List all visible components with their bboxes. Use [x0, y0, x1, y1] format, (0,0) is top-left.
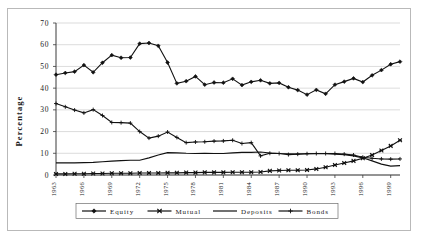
chart-outer-frame: Percentage 010203040506070 1963196619691…	[7, 8, 411, 231]
marker-diamond	[147, 41, 151, 45]
series-mutual	[54, 138, 402, 175]
x-tick-label: 1996	[357, 182, 364, 197]
marker-diamond	[287, 85, 291, 89]
chart-legend: EquityMutualDepositsBonds	[76, 204, 338, 219]
legend-item-deposits[interactable]: Deposits	[213, 208, 273, 216]
y-tick-label: 10	[40, 149, 49, 158]
y-axis-title-group: Percentage	[14, 96, 24, 147]
marker-diamond	[184, 79, 188, 83]
x-tick-label: 1966	[78, 182, 85, 197]
y-gridlines	[56, 23, 400, 175]
axis-lines	[56, 23, 400, 175]
x-tick-label: 1984	[245, 182, 252, 197]
x-tick-label: 1981	[217, 182, 224, 196]
y-tick-label: 70	[40, 19, 49, 28]
x-tick-label: 1963	[50, 182, 57, 196]
marker-diamond	[119, 56, 123, 60]
legend-item-equity[interactable]: Equity	[82, 208, 134, 216]
marker-diamond	[277, 81, 281, 85]
y-tick-label: 0	[45, 171, 49, 180]
line-chart: Percentage 010203040506070 1963196619691…	[8, 9, 410, 230]
legend-label: Equity	[110, 208, 134, 216]
series-line	[56, 43, 400, 95]
marker-diamond	[314, 88, 318, 92]
marker-diamond	[92, 209, 96, 213]
marker-diamond	[54, 73, 58, 77]
chart-figure: Percentage 010203040506070 1963196619691…	[0, 0, 428, 243]
x-tick-label: 1987	[273, 182, 280, 197]
marker-diamond	[268, 81, 272, 85]
y-tick-label: 50	[40, 62, 49, 71]
x-tick-label: 1993	[329, 182, 336, 196]
marker-diamond	[259, 78, 263, 82]
x-tick-label: 1975	[162, 182, 169, 196]
legend-label: Deposits	[241, 208, 273, 216]
y-axis-title: Percentage	[14, 96, 24, 147]
marker-diamond	[63, 71, 67, 75]
marker-diamond	[212, 81, 216, 85]
x-tick-label: 1969	[106, 182, 113, 196]
marker-diamond	[221, 81, 225, 85]
x-tick-label: 1999	[385, 182, 392, 196]
data-series-group	[54, 41, 402, 176]
x-tick-label: 1990	[301, 182, 308, 196]
marker-diamond	[296, 88, 300, 92]
marker-diamond	[175, 81, 179, 85]
legend-item-bonds[interactable]: Bonds	[279, 208, 329, 216]
legend-item-mutual[interactable]: Mutual	[148, 208, 202, 216]
y-tick-label: 20	[40, 127, 49, 136]
y-tick-label: 60	[40, 40, 49, 49]
legend-label: Mutual	[176, 208, 202, 216]
marker-diamond	[342, 80, 346, 84]
marker-diamond	[249, 80, 253, 84]
legend-label: Bonds	[307, 208, 329, 216]
marker-diamond	[352, 76, 356, 80]
x-tick-label: 1972	[134, 182, 141, 196]
y-tick-label: 30	[40, 105, 49, 114]
top-text-fragment	[4, 0, 424, 5]
x-tick-label: 1978	[189, 182, 196, 196]
series-line	[56, 140, 400, 174]
x-tick-labels: 1963196619691972197519781981198419871990…	[50, 175, 392, 196]
marker-diamond	[305, 93, 309, 97]
y-tick-label: 40	[40, 84, 49, 93]
marker-diamond	[398, 60, 402, 64]
y-tick-labels: 010203040506070	[40, 19, 56, 180]
